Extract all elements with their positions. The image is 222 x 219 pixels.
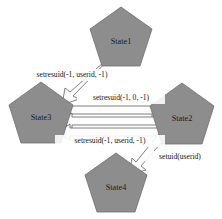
diagram-canvas: State1 State3 State2 State4 setresuid(-1… <box>0 0 222 219</box>
edge-label-state2-state4: setuid(userid) <box>145 151 217 163</box>
edge-label-2: setresuid(-1, 0, -1) <box>93 93 150 102</box>
node-state3[interactable]: State3 <box>9 82 73 143</box>
edge-state3-to-state2 <box>62 102 165 118</box>
edge-label-3: setresuid(-1, userid, -1) <box>75 136 146 145</box>
state2-label: State2 <box>172 114 192 123</box>
state4-label: State4 <box>106 183 126 192</box>
edge-state2-to-state3-upper <box>59 113 162 129</box>
edge-label-state2-state3: setresuid(-1, userid, -1) <box>55 135 165 147</box>
edge-label-state3-state2: setresuid(-1, 0, -1) <box>77 92 165 104</box>
edge-label-1: setresuid(-1, userid, -1) <box>37 70 108 79</box>
node-state1[interactable]: State1 <box>90 7 152 66</box>
block-arrow-state3-state2 <box>62 102 165 118</box>
state1-label: State1 <box>111 37 131 46</box>
edge-label-4: setuid(userid) <box>159 152 201 161</box>
edge-label-state1-state3: setresuid(-1, userid, -1) <box>17 69 127 81</box>
state-diagram: State1 State3 State2 State4 setresuid(-1… <box>0 0 222 219</box>
block-arrow-state2-state3-upper <box>59 113 162 129</box>
state3-label: State3 <box>31 113 51 122</box>
